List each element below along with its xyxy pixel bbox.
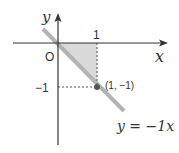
point-label: (1, −1) [105, 80, 134, 91]
y-tick-label: −1 [35, 81, 49, 95]
x-axis-label: x [155, 47, 164, 66]
origin-label: O [45, 50, 54, 64]
coordinate-diagram: y x O 1 −1 (1, −1) y = −1x [0, 0, 179, 153]
graph-line [43, 29, 124, 111]
y-axis-label: y [41, 8, 51, 26]
equation-label: y = −1x [116, 118, 174, 134]
point-marker [94, 84, 100, 90]
x-tick-label: 1 [93, 28, 100, 42]
